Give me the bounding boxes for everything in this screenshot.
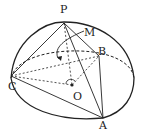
- label-A: A: [98, 119, 108, 130]
- center-point-O: [70, 83, 73, 86]
- right-angle-arc-O: [66, 79, 75, 84]
- label-O: O: [73, 90, 82, 103]
- label-C: C: [8, 80, 16, 93]
- label-P: P: [60, 3, 68, 16]
- label-B: B: [98, 45, 106, 58]
- m-leader-curve: [57, 31, 84, 59]
- base-ellipse-back: [11, 51, 134, 78]
- edge-CA: [11, 76, 103, 118]
- edge-CB-dashed: [11, 56, 99, 76]
- label-M: M: [84, 26, 95, 39]
- edge-OB-dashed: [72, 56, 99, 85]
- hemisphere-diagram: P M B C O A: [0, 0, 141, 130]
